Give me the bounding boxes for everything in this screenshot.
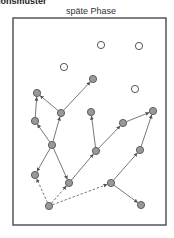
filled-node-K	[107, 179, 114, 186]
filled-node-J	[119, 119, 126, 126]
filled-node-A	[33, 89, 40, 96]
nodes-group	[31, 41, 156, 209]
filled-node-N	[137, 201, 144, 208]
open-node	[97, 41, 104, 48]
edge-D-E	[37, 148, 50, 171]
open-node	[131, 85, 138, 92]
edge-C-A	[35, 97, 36, 117]
edge-G-E	[37, 179, 48, 203]
filled-node-F	[65, 179, 72, 186]
edge-D-C	[37, 124, 50, 142]
edge-K-M	[113, 153, 137, 180]
edge-I-J	[98, 126, 120, 148]
edge-G-K	[52, 184, 107, 204]
edge-D-F	[53, 148, 67, 179]
filled-node-I	[92, 147, 99, 154]
filled-node-E	[31, 171, 38, 178]
filled-node-C	[31, 117, 38, 124]
edge-F-I	[71, 154, 93, 180]
filled-node-H	[87, 108, 94, 115]
open-node	[135, 42, 142, 49]
filled-node-B	[57, 109, 64, 116]
filled-node-D	[48, 141, 55, 148]
filled-node-L	[149, 107, 156, 114]
edge-B-A	[40, 96, 58, 111]
edge-M-L	[141, 115, 152, 147]
edge-D-B	[53, 117, 60, 142]
edge-K-N	[114, 185, 138, 202]
edge-G-F	[51, 186, 66, 203]
edge-J-L	[126, 113, 149, 122]
filled-node-P	[89, 75, 96, 82]
edge-B-P	[63, 82, 90, 110]
network-diagram	[0, 0, 174, 238]
filled-node-G	[45, 202, 52, 209]
open-node	[60, 63, 67, 70]
edge-I-H	[92, 116, 96, 147]
filled-node-M	[136, 146, 143, 153]
